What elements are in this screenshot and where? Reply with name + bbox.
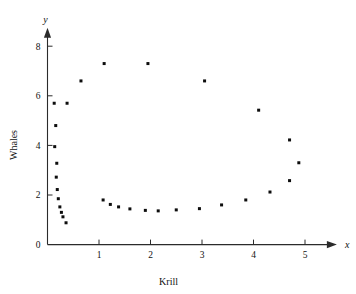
data-point	[66, 102, 69, 105]
y-axis-name-label: Whales	[8, 130, 19, 160]
data-point	[117, 205, 120, 208]
data-point	[79, 79, 82, 82]
data-point	[57, 197, 60, 200]
data-point	[257, 109, 260, 112]
data-point	[268, 191, 271, 194]
data-point	[60, 211, 63, 214]
x-tick-label: 1	[97, 250, 102, 260]
x-axis-name-label: Krill	[159, 276, 178, 287]
plot-canvas: 1234502468 xyKrillWhales	[0, 0, 356, 294]
data-points-group	[53, 62, 301, 224]
y-tick-label: 4	[36, 141, 41, 151]
x-tick-label: 2	[148, 250, 153, 260]
data-point	[54, 124, 57, 127]
x-axis-arrow-icon	[327, 241, 337, 248]
x-tick-label: 4	[251, 250, 256, 260]
data-point	[175, 208, 178, 211]
ticks-group: 1234502468	[36, 42, 308, 260]
y-axis-variable-label: y	[42, 14, 48, 25]
data-point	[102, 198, 105, 201]
y-axis-arrow-icon	[44, 28, 51, 38]
data-point	[58, 205, 61, 208]
x-tick-label: 3	[200, 250, 205, 260]
axis-labels-group: xyKrillWhales	[8, 14, 350, 287]
data-point	[128, 207, 131, 210]
data-point	[103, 62, 106, 65]
data-point	[244, 198, 247, 201]
data-point	[109, 203, 112, 206]
data-point	[53, 102, 56, 105]
x-tick-label: 5	[303, 250, 308, 260]
data-point	[288, 138, 291, 141]
data-point	[288, 179, 291, 182]
scatter-plot-figure: 1234502468 xyKrillWhales	[0, 0, 356, 294]
data-point	[65, 221, 68, 224]
y-tick-label: 6	[36, 91, 41, 101]
x-axis-variable-label: x	[344, 239, 350, 250]
y-tick-label: 0	[36, 240, 41, 250]
data-point	[53, 145, 56, 148]
data-point	[297, 161, 300, 164]
data-point	[56, 188, 59, 191]
data-point	[157, 209, 160, 212]
data-point	[61, 215, 64, 218]
y-tick-label: 2	[36, 190, 41, 200]
data-point	[220, 203, 223, 206]
data-point	[146, 62, 149, 65]
data-point	[55, 162, 58, 165]
data-point	[144, 209, 147, 212]
axes-group	[44, 28, 337, 248]
data-point	[198, 207, 201, 210]
data-point	[55, 176, 58, 179]
data-point	[203, 79, 206, 82]
y-tick-label: 8	[36, 42, 41, 52]
